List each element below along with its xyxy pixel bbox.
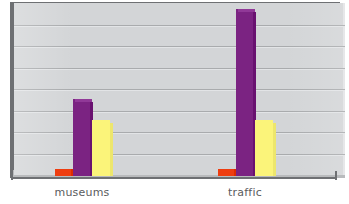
bar-face (255, 120, 273, 176)
bar-top-face (238, 9, 255, 12)
bar-top-face (75, 99, 92, 102)
x-axis-tick-right (335, 171, 337, 180)
category-label-traffic: traffic (228, 186, 262, 199)
category-label-museums: museums (54, 186, 109, 199)
bar-traffic-series-2 (236, 9, 253, 176)
bar-face (73, 99, 90, 176)
bar-museums-series-3 (92, 120, 110, 176)
bar-museums-series-2 (73, 99, 90, 176)
bar-face (236, 9, 253, 176)
bar-side-face (110, 123, 113, 176)
bar-face (55, 169, 71, 176)
bar-traffic-series-1 (218, 169, 234, 176)
bar-museums-series-1 (55, 169, 71, 176)
bar-face (218, 169, 234, 176)
x-axis-tick-left (11, 171, 13, 180)
x-axis-line (11, 177, 337, 179)
bar-traffic-series-3 (255, 120, 273, 176)
bar-side-face (273, 123, 276, 176)
bar-face (92, 120, 110, 176)
bar-chart: museumstraffic (0, 0, 349, 204)
bars-layer (0, 0, 349, 204)
